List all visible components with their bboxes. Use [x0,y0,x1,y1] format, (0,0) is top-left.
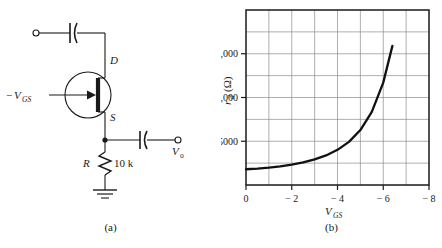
panel-circuit: D S − V GS V o [0,0,221,248]
y-tick-label: 15,000 [221,48,238,59]
output-capacitor-plate-right [145,131,148,149]
x-tick-label: − 8 [422,193,435,204]
panel-chart: 500010,00015,000 0− 2− 4− 6− 8 r d (Ω) V… [221,0,442,248]
x-axis-title-sub: GS [333,211,342,220]
resistor-zigzag-icon [99,152,111,175]
gate-supply-label: V [14,89,22,101]
x-tick-label: 0 [244,193,249,204]
x-tick-label: − 6 [377,193,390,204]
x-tick-labels: 0− 2− 4− 6− 8 [244,193,436,204]
output-subscript: o [180,151,184,160]
input-terminal-icon [33,30,39,36]
output-terminal-icon [175,137,181,143]
source-label: S [110,111,116,123]
data-curve-rd [246,46,392,169]
caption-panel-b: (b) [221,221,442,233]
gate-supply-subscript: GS [22,95,31,104]
jfet-gate-arrow-icon [87,91,96,100]
x-axis-title-main: V [325,205,333,217]
circuit-diagram: D S − V GS V o [0,0,221,221]
drain-label: D [109,54,118,66]
gate-supply-sign: − [6,89,12,101]
y-axis-title-main: r [221,100,233,105]
y-axis-title-unit: (Ω) [221,76,234,92]
rd-vs-vgs-chart: 500010,00015,000 0− 2− 4− 6− 8 r d (Ω) V… [221,0,442,221]
output-label: V [172,145,180,157]
x-axis-title: V GS [325,205,342,220]
y-tick-label: 5000 [221,136,238,147]
x-tick-label: − 2 [285,193,298,204]
resistor-name-label: R [82,157,90,169]
caption-panel-a: (a) [0,221,221,233]
x-tick-label: − 4 [331,193,344,204]
y-axis-title-sub: d [227,95,236,99]
resistor-value-label: 10 k [114,157,134,169]
figure-container: D S − V GS V o [0,0,442,248]
input-capacitor-plate-right [75,23,78,43]
